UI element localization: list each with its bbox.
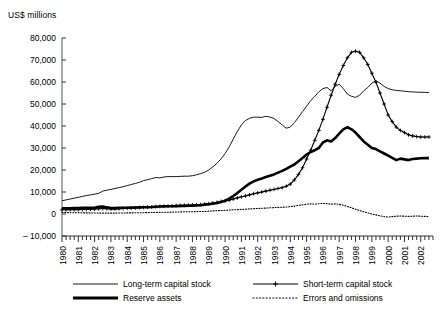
plus-marker [276, 187, 280, 191]
plus-marker [235, 196, 239, 200]
y-tick-label: 70,000 [30, 55, 56, 65]
plus-marker [264, 189, 268, 193]
plus-marker [256, 191, 260, 195]
legend-label: Errors and omissions [303, 293, 383, 303]
series-line [62, 203, 429, 217]
y-tick-label: 10,000 [30, 187, 56, 197]
x-tick-label: 1980 [58, 246, 68, 265]
plus-marker [411, 134, 415, 138]
plus-marker [329, 93, 333, 97]
x-tick-label: 1987 [172, 246, 182, 265]
y-tick-label: 50,000 [30, 99, 56, 109]
x-tick-marks [62, 236, 433, 242]
plus-marker [427, 135, 431, 139]
plus-marker [272, 187, 276, 191]
plus-marker [252, 192, 256, 196]
x-tick-label: 1999 [367, 246, 377, 265]
y-tick-label: – 10,000 [23, 231, 56, 241]
plus-marker [268, 188, 272, 192]
y-tick-label: 30,000 [30, 143, 56, 153]
plus-marker [321, 118, 325, 122]
plus-marker [260, 190, 264, 194]
x-tick-label: 1984 [123, 246, 133, 265]
series-line [62, 81, 429, 201]
x-tick-label: 1990 [221, 246, 231, 265]
plus-marker [337, 72, 341, 76]
x-tick-label: 2001 [400, 246, 410, 265]
plus-marker [248, 193, 252, 197]
plot-area: – 10,000010,00020,00030,00040,00050,0006… [0, 0, 446, 319]
y-tick-label: 80,000 [30, 33, 56, 43]
plus-marker [354, 49, 358, 53]
x-tick-label: 2000 [384, 246, 394, 265]
x-tick-label: 1981 [74, 246, 84, 265]
x-tick-label: 1995 [302, 246, 312, 265]
plus-marker [370, 71, 374, 75]
x-tick-label: 1989 [204, 246, 214, 265]
plus-marker [419, 135, 423, 139]
legend-plus-marker [273, 282, 278, 287]
plus-marker [280, 186, 284, 190]
plus-marker [423, 135, 427, 139]
chart-legend: Long-term capital stockShort-term capita… [73, 279, 393, 303]
plus-marker [239, 195, 243, 199]
plus-marker [325, 105, 329, 109]
x-tick-label: 1992 [253, 246, 263, 265]
plus-marker [317, 129, 321, 133]
x-tick-label: 1994 [286, 246, 296, 265]
y-tick-label: 20,000 [30, 165, 56, 175]
legend-label: Short-term capital stock [303, 279, 393, 289]
x-tick-label: 2002 [416, 246, 426, 265]
y-tick-label: 60,000 [30, 77, 56, 87]
chart-figure: US$ millions – 10,000010,00020,00030,000… [0, 0, 446, 319]
x-tick-label: 1998 [351, 246, 361, 265]
x-tick-label: 1985 [139, 246, 149, 265]
y-tick-marks [62, 38, 66, 236]
legend-label: Long-term capital stock [123, 279, 212, 289]
legend-label: Reserve assets [123, 293, 182, 303]
plus-marker [313, 138, 317, 142]
x-tick-label: 1993 [270, 246, 280, 265]
y-tick-label: 0 [51, 209, 56, 219]
x-tick-label: 1991 [237, 246, 247, 265]
plus-marker [341, 64, 345, 68]
x-tick-label: 1996 [318, 246, 328, 265]
chart-svg: – 10,000010,00020,00030,00040,00050,0006… [0, 0, 446, 319]
plus-marker [378, 91, 382, 95]
x-tick-label: 1983 [106, 246, 116, 265]
plus-marker [244, 194, 248, 198]
plus-marker [382, 102, 386, 106]
x-tick-label: 1982 [90, 246, 100, 265]
plus-marker [415, 135, 419, 139]
x-tick-labels: 1980198119821983198419851986198719881989… [58, 246, 427, 265]
data-series-layer [60, 49, 431, 217]
y-tick-labels: – 10,000010,00020,00030,00040,00050,0006… [23, 33, 56, 241]
x-tick-label: 1986 [155, 246, 165, 265]
plus-marker [305, 157, 309, 161]
x-tick-label: 1988 [188, 246, 198, 265]
plus-marker [374, 80, 378, 84]
x-tick-label: 1997 [335, 246, 345, 265]
y-tick-label: 40,000 [30, 121, 56, 131]
